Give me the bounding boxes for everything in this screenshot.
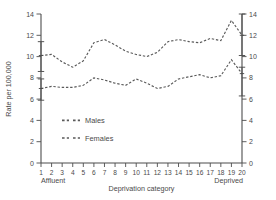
xtick-label-20: 20 xyxy=(238,169,246,176)
chart-figure: 0 2 4 6 8 10 12 14 0 2 4 6 8 10 12 xyxy=(0,0,276,200)
ytick-right-label-6: 6 xyxy=(249,96,253,103)
xtick-label-13: 13 xyxy=(164,169,172,176)
xtick-label-6: 6 xyxy=(92,169,96,176)
xtick-label-1: 1 xyxy=(39,169,43,176)
xtick-label-18: 18 xyxy=(217,169,225,176)
y-axis-right-ticks xyxy=(242,14,247,163)
xtick-label-10: 10 xyxy=(133,169,141,176)
ytick-right-label-4: 4 xyxy=(249,117,253,124)
xtick-label-3: 3 xyxy=(60,169,64,176)
xtick-label-17: 17 xyxy=(207,169,215,176)
xtick-label-9: 9 xyxy=(124,169,128,176)
x-axis-ticks xyxy=(41,163,242,167)
ytick-label-6: 6 xyxy=(30,96,34,103)
x-axis-tick-labels: 1234567891011121314151617181920 xyxy=(39,169,246,176)
xtick-label-16: 16 xyxy=(196,169,204,176)
xtick-label-19: 19 xyxy=(228,169,236,176)
ytick-label-10: 10 xyxy=(26,53,34,60)
ytick-label-0: 0 xyxy=(30,160,34,167)
xtick-label-11: 11 xyxy=(143,169,150,176)
x-axis-right-end-label: Deprived xyxy=(214,176,243,185)
x-axis-left-end-label: Affluent xyxy=(41,176,65,185)
error-bar-females-x1 xyxy=(38,79,44,100)
ytick-label-8: 8 xyxy=(30,74,34,81)
ytick-right-label-12: 12 xyxy=(249,32,257,39)
xtick-label-15: 15 xyxy=(185,169,193,176)
rate-by-deprivation-line-chart: 0 2 4 6 8 10 12 14 0 2 4 6 8 10 12 xyxy=(0,0,276,200)
xtick-label-2: 2 xyxy=(50,169,54,176)
xtick-label-5: 5 xyxy=(81,169,85,176)
ytick-label-14: 14 xyxy=(26,11,34,18)
xtick-label-8: 8 xyxy=(113,169,117,176)
ytick-label-12: 12 xyxy=(26,32,34,39)
legend-label-males: Males xyxy=(85,116,105,125)
xtick-label-7: 7 xyxy=(103,169,107,176)
y-axis-left-tick-labels: 0 2 4 6 8 10 12 14 xyxy=(26,11,34,167)
y-axis-title: Rate per 100,000 xyxy=(4,61,13,117)
y-axis-right-tick-labels: 0 2 4 6 8 10 12 14 xyxy=(249,11,257,167)
ytick-right-label-14: 14 xyxy=(249,11,257,18)
series-line-males xyxy=(41,20,242,67)
xtick-label-12: 12 xyxy=(154,169,162,176)
x-axis-title: Deprivation category xyxy=(109,184,175,193)
ytick-right-label-2: 2 xyxy=(249,138,253,145)
ytick-label-2: 2 xyxy=(30,138,34,145)
error-bar-males-x20 xyxy=(239,14,245,56)
ytick-right-label-0: 0 xyxy=(249,160,253,167)
xtick-label-4: 4 xyxy=(71,169,75,176)
error-bars-group xyxy=(38,14,245,100)
legend-label-females: Females xyxy=(85,134,114,143)
ytick-label-4: 4 xyxy=(30,117,34,124)
xtick-label-14: 14 xyxy=(175,169,183,176)
ytick-right-label-10: 10 xyxy=(249,53,257,60)
chart-legend: Males Females xyxy=(62,116,114,143)
series-line-females xyxy=(41,60,242,89)
data-series-group xyxy=(41,20,242,88)
ytick-right-label-8: 8 xyxy=(249,74,253,81)
